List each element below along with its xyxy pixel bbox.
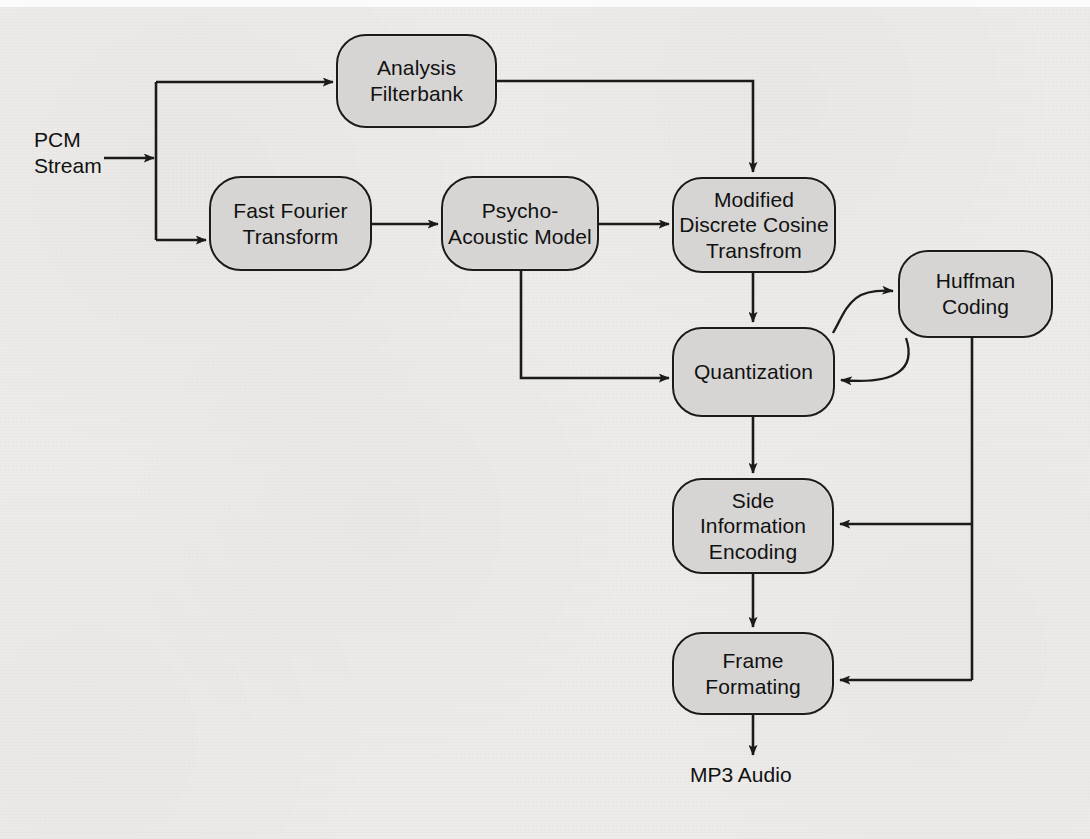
edge-quantization-to-huffman — [833, 291, 893, 333]
process-node-analysis-filterbank[interactable]: Analysis Filterbank — [336, 34, 497, 128]
diagram-canvas: Analysis FilterbankFast Fourier Transfor… — [0, 0, 1090, 839]
pcm-stream-label: PCM Stream — [34, 127, 102, 179]
edge-analysis-to-mdct — [497, 81, 753, 172]
process-node-psycho-acoustic-model[interactable]: Psycho- Acoustic Model — [441, 176, 599, 271]
edge-huffman-to-quantization — [841, 338, 909, 381]
process-node-mdct[interactable]: Modified Discrete Cosine Transfrom — [672, 177, 836, 273]
edge-pam-to-quantization — [521, 271, 669, 378]
process-node-frame-formating[interactable]: Frame Formating — [672, 632, 834, 715]
process-node-fast-fourier-transform[interactable]: Fast Fourier Transform — [209, 176, 372, 271]
process-node-quantization[interactable]: Quantization — [672, 327, 835, 417]
process-node-huffman-coding[interactable]: Huffman Coding — [898, 250, 1053, 338]
process-node-side-information[interactable]: Side Information Encoding — [672, 478, 834, 574]
connector-layer — [0, 0, 1090, 839]
mp3-audio-label: MP3 Audio — [690, 762, 792, 788]
